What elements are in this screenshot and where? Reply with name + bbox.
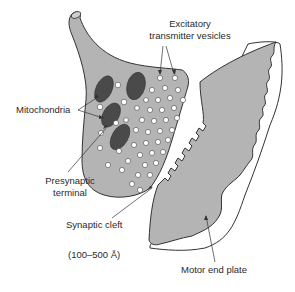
vesicles-label-line1: Excitatory — [140, 18, 240, 30]
presynaptic-terminal-label: Presynaptic terminal — [38, 175, 102, 199]
vesicles-label: Excitatory transmitter vesicles — [140, 18, 240, 42]
cleft-width-label: (100–500 Å) — [68, 249, 120, 261]
presynaptic-label-line2: terminal — [38, 187, 102, 199]
mitochondria-label: Mitochondria — [16, 104, 70, 116]
motor-end-plate-label: Motor end plate — [181, 264, 247, 276]
synaptic-cleft-label: Synaptic cleft — [66, 219, 123, 231]
neuromuscular-junction-diagram — [0, 0, 295, 292]
vesicles-label-line2: transmitter vesicles — [140, 30, 240, 42]
presynaptic-label-line1: Presynaptic — [38, 175, 102, 187]
